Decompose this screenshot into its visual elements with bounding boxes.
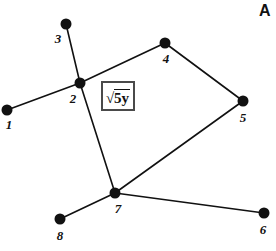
- boxed-expression: √5y: [101, 81, 135, 111]
- graph-node: [2, 105, 13, 116]
- graph-edge: [165, 43, 243, 101]
- graph-edge: [80, 43, 165, 83]
- radicand-text: 5y: [114, 89, 130, 106]
- graph-node-label: 8: [57, 229, 64, 242]
- graph-node: [55, 214, 66, 225]
- graph-node-label: 7: [115, 202, 122, 215]
- graph-edge: [60, 193, 115, 219]
- graph-node: [61, 19, 72, 30]
- graph-node-label: 5: [240, 111, 247, 124]
- expression-content: √5y: [106, 89, 130, 106]
- graph-node: [75, 78, 86, 89]
- graph-node: [259, 208, 270, 219]
- graph-node: [238, 96, 249, 107]
- graph-node: [160, 38, 171, 49]
- graph-node: [110, 188, 121, 199]
- radical-sign-icon: √: [106, 91, 114, 106]
- graph-canvas: [0, 0, 276, 251]
- graph-node-label: 3: [55, 32, 62, 45]
- graph-nodes: [2, 19, 270, 225]
- graph-edge: [115, 101, 243, 193]
- graph-node-label: 2: [70, 92, 77, 105]
- corner-letter-label: A: [259, 3, 271, 19]
- graph-edges: [7, 24, 264, 219]
- graph-figure: 12345678 √5y A: [0, 0, 276, 251]
- graph-node-label: 4: [163, 52, 170, 65]
- graph-edge: [115, 193, 264, 213]
- graph-node-label: 1: [6, 118, 13, 131]
- graph-edge: [66, 24, 80, 83]
- graph-node-label: 6: [260, 223, 267, 236]
